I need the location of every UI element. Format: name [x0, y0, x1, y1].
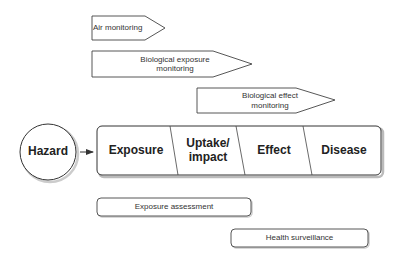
exposure-assessment-label: Exposure assessment — [97, 198, 251, 216]
stage-exposure: Exposure — [100, 126, 172, 175]
stage-effect: Effect — [241, 126, 307, 175]
health-surveillance-text: Health surveillance — [266, 233, 334, 242]
biological-exposure-line1: Biological exposure — [140, 55, 209, 64]
biological-effect-line2: monitoring — [251, 101, 288, 110]
stage-disease-text: Disease — [321, 144, 366, 158]
exposure-assessment-text: Exposure assessment — [135, 202, 214, 211]
air-monitoring-label: Air monitoring — [93, 16, 147, 40]
stage-uptake-impact: Uptake/ impact — [175, 126, 241, 175]
stage-uptake-line2: impact — [189, 151, 228, 165]
air-monitoring-text: Air monitoring — [93, 23, 142, 32]
biological-exposure-line2: monitoring — [156, 64, 193, 73]
hazard-label: Hazard — [20, 124, 76, 180]
stage-disease: Disease — [308, 126, 380, 175]
stage-exposure-text: Exposure — [109, 144, 164, 158]
biological-effect-monitoring-label: Biological effect monitoring — [225, 88, 315, 113]
biological-exposure-monitoring-label: Biological exposure monitoring — [110, 51, 240, 77]
stage-effect-text: Effect — [257, 144, 290, 158]
stage-uptake-line1: Uptake/ — [186, 137, 229, 151]
hazard-text: Hazard — [28, 145, 68, 159]
biological-effect-line1: Biological effect — [242, 91, 298, 100]
health-surveillance-label: Health surveillance — [231, 229, 368, 247]
